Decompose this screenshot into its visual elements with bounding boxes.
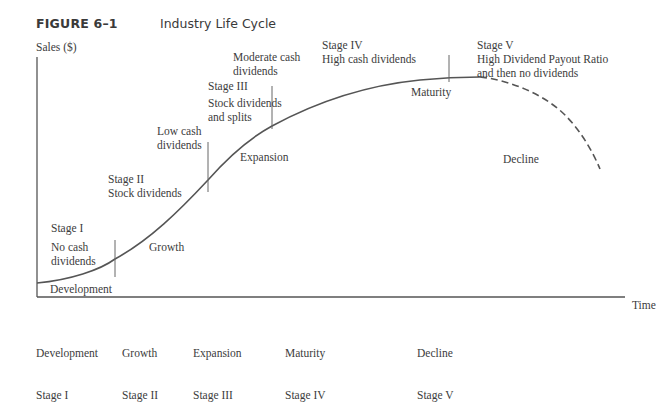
bottom-phase: Expansion [193, 346, 242, 360]
low-cash-text: Low cash dividends [157, 124, 202, 152]
stage4-text: Stage IV High cash dividends [322, 38, 416, 66]
bottom-stage: Stage I [36, 388, 98, 402]
phase-maturity: Maturity [411, 85, 451, 99]
bottom-label-expansion: Expansion Stage III [193, 318, 242, 406]
bottom-stage: Stage II [122, 388, 158, 402]
bottom-phase: Development [36, 346, 98, 360]
bottom-stage: Stage V [417, 388, 454, 402]
stage1-heading: Stage I [51, 221, 83, 235]
bottom-phase: Decline [417, 346, 454, 360]
bottom-label-maturity: Maturity Stage IV [285, 318, 326, 406]
bottom-label-growth: Growth Stage II [122, 318, 158, 406]
stage5-text: Stage V High Dividend Payout Ratio and t… [477, 38, 608, 80]
stage3-heading: Stage III [208, 79, 248, 93]
phase-decline: Decline [503, 152, 539, 166]
phase-growth: Growth [149, 240, 184, 254]
bottom-phase: Maturity [285, 346, 326, 360]
moderate-cash-text: Moderate cash dividends [233, 50, 300, 78]
decline-curve [480, 77, 600, 169]
phase-expansion: Expansion [240, 150, 289, 164]
bottom-label-decline: Decline Stage V [417, 318, 454, 406]
stage2-text: Stage II Stock dividends [108, 172, 182, 200]
bottom-stage: Stage IV [285, 388, 326, 402]
x-axis-label: Time [632, 298, 656, 312]
y-axis-label: Sales ($) [36, 40, 77, 54]
bottom-stage: Stage III [193, 388, 242, 402]
phase-development: Development [50, 282, 112, 296]
stage1-text: No cash dividends [51, 240, 96, 268]
bottom-phase: Growth [122, 346, 158, 360]
stage3-text: Stock dividends and splits [208, 96, 282, 124]
bottom-label-development: Development Stage I [36, 318, 98, 406]
